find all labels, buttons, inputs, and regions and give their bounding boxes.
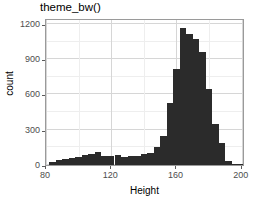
x-axis-title: Height xyxy=(45,185,244,196)
histogram-bar xyxy=(160,136,167,165)
chart-container: theme_bw() count Height 0300600900120080… xyxy=(0,0,256,201)
histogram-bar xyxy=(62,159,69,165)
plot-panel xyxy=(45,19,244,166)
x-axis-tick-label: 80 xyxy=(30,170,60,180)
histogram-bar xyxy=(69,158,76,165)
x-axis-tick-label: 160 xyxy=(160,170,190,180)
histogram-bar xyxy=(199,52,206,165)
histogram-bar xyxy=(154,147,161,165)
histogram-bar xyxy=(232,164,239,165)
histogram-bar xyxy=(141,154,148,165)
histogram-bar xyxy=(82,155,89,165)
histogram-bar xyxy=(173,69,180,165)
y-axis-tick-label: 300 xyxy=(8,125,40,135)
y-axis-tick-label: 0 xyxy=(8,160,40,170)
histogram-bar xyxy=(115,155,122,165)
histogram-bar xyxy=(206,89,213,165)
y-axis-tick-mark xyxy=(42,25,45,26)
y-axis-tick-mark xyxy=(42,60,45,61)
histogram-bar xyxy=(108,156,115,165)
x-axis-tick-label: 120 xyxy=(95,170,125,180)
y-axis-tick-label: 900 xyxy=(8,54,40,64)
x-axis-tick-mark xyxy=(241,166,242,169)
histogram-bar xyxy=(95,152,102,165)
histogram-bar xyxy=(219,143,226,165)
y-axis-tick-label: 600 xyxy=(8,89,40,99)
x-axis-tick-label: 200 xyxy=(226,170,256,180)
x-axis-tick-mark xyxy=(45,166,46,169)
y-axis-tick-mark xyxy=(42,95,45,96)
histogram-bars xyxy=(46,20,243,165)
x-axis-tick-mark xyxy=(110,166,111,169)
histogram-bar xyxy=(238,164,244,165)
histogram-bar xyxy=(186,34,193,165)
chart-title: theme_bw() xyxy=(40,1,101,13)
histogram-bar xyxy=(128,156,135,165)
histogram-bar xyxy=(49,162,56,165)
y-axis-tick-label: 1200 xyxy=(8,19,40,29)
y-axis-tick-mark xyxy=(42,131,45,132)
x-axis-tick-mark xyxy=(175,166,176,169)
